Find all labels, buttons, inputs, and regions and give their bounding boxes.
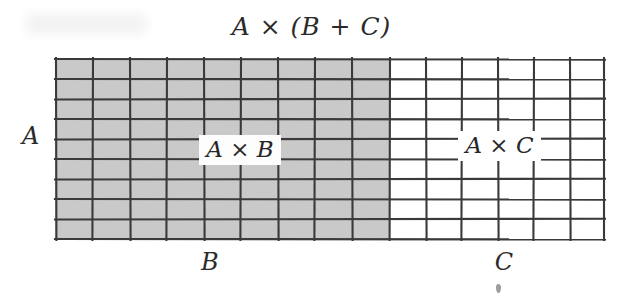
diagram-title: A × (B + C) xyxy=(0,12,623,41)
label-a-axis: A xyxy=(22,122,39,150)
label-b-axis: B xyxy=(201,248,219,276)
label-a-times-b: A × B xyxy=(199,135,280,166)
ink-smudge xyxy=(496,284,501,293)
label-c-axis: C xyxy=(495,248,513,276)
grid-area: A × B A × C xyxy=(55,58,605,240)
label-a-times-c: A × C xyxy=(458,131,540,162)
area-model-diagram: A × (B + C) xyxy=(0,0,623,305)
